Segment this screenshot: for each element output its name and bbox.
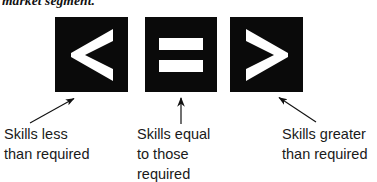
top-text-fragment-label: market segment. xyxy=(2,0,202,8)
caption-line: than required xyxy=(4,144,89,164)
caption-equals: Skills equal to those required xyxy=(137,124,210,182)
equals-bars-icon xyxy=(145,17,217,92)
figure-canvas: market segment. xyxy=(0,0,377,182)
greater-than-chevron-icon xyxy=(230,17,303,92)
caption-less-than: Skills less than required xyxy=(4,124,89,164)
caption-line: Skills equal xyxy=(137,124,210,144)
caption-line: required xyxy=(137,164,210,182)
arrow-up-right xyxy=(30,99,74,124)
arrow-up-left xyxy=(279,98,316,123)
caption-line: than required xyxy=(282,144,367,164)
symbol-tile-less-than xyxy=(55,17,128,92)
caption-greater-than: Skills greater than required xyxy=(282,124,367,164)
less-than-chevron-icon xyxy=(55,17,128,92)
caption-line: Skills greater xyxy=(282,124,367,144)
caption-line: to those xyxy=(137,144,210,164)
symbol-tile-equals xyxy=(145,17,217,92)
symbol-tile-greater-than xyxy=(230,17,303,92)
caption-line: Skills less xyxy=(4,124,89,144)
top-text-fragment: market segment. xyxy=(2,0,202,9)
